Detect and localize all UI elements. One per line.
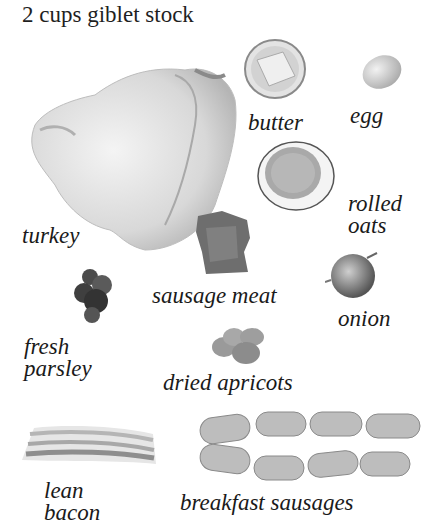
label-lean-bacon-line1: lean	[44, 480, 100, 502]
dried-apricots-image	[208, 325, 268, 367]
lean-bacon-image	[18, 420, 158, 470]
label-fresh-parsley: fresh parsley	[24, 336, 92, 380]
label-turkey: turkey	[22, 225, 79, 247]
label-lean-bacon-line2: bacon	[44, 502, 100, 520]
label-rolled-oats-line1: rolled	[348, 193, 402, 215]
rolled-oats-image	[256, 140, 336, 212]
page-title: 2 cups giblet stock	[22, 2, 194, 28]
label-egg: egg	[350, 105, 383, 127]
label-rolled-oats-line2: oats	[348, 215, 402, 237]
label-fresh-parsley-line2: parsley	[24, 358, 92, 380]
label-fresh-parsley-line1: fresh	[24, 336, 92, 358]
label-lean-bacon: lean bacon	[44, 480, 100, 520]
label-dried-apricots: dried apricots	[163, 372, 293, 394]
label-onion: onion	[338, 308, 390, 330]
fresh-parsley-image	[68, 265, 120, 327]
breakfast-sausages-image	[198, 410, 423, 485]
label-breakfast-sausages: breakfast sausages	[180, 492, 354, 514]
label-sausage-meat: sausage meat	[152, 285, 277, 307]
egg-image	[360, 52, 404, 92]
label-rolled-oats: rolled oats	[348, 193, 402, 237]
onion-image	[325, 250, 383, 300]
sausage-meat-image	[192, 208, 254, 278]
butter-image	[243, 38, 307, 100]
label-butter: butter	[248, 112, 303, 134]
